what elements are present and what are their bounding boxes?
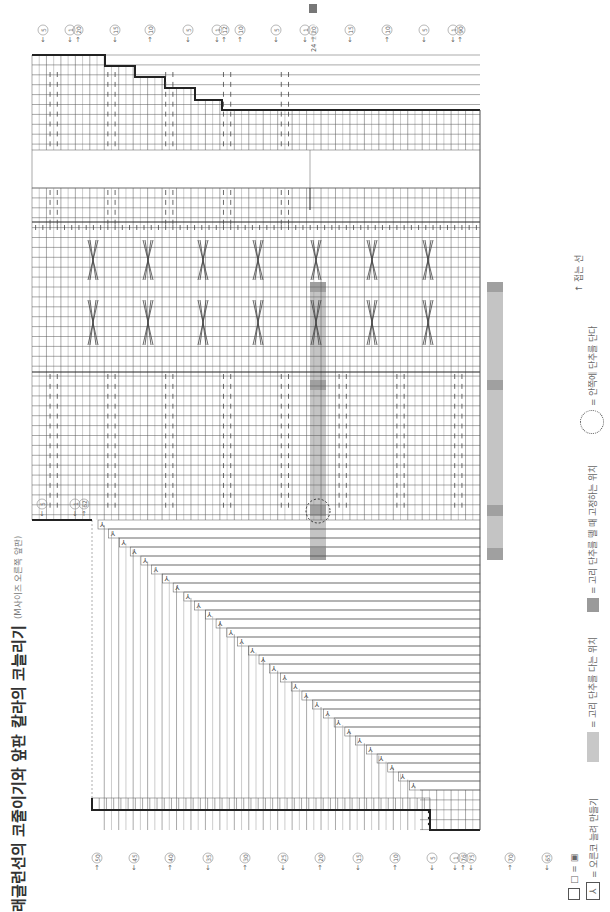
- arrow-icon: ↓: [40, 36, 46, 44]
- decrease-icon: ⅄: [174, 584, 180, 592]
- fix-position-cell: [487, 505, 503, 516]
- row-label: 10: [382, 25, 392, 35]
- svg-text:15: 15: [355, 854, 362, 862]
- svg-text:1: 1: [67, 28, 74, 32]
- arrow-icon: ↓: [302, 36, 308, 44]
- svg-text:1: 1: [72, 502, 79, 506]
- arrow-icon: ↓: [72, 510, 78, 518]
- decrease-icon: ⅄: [335, 719, 341, 727]
- arrow-icon: ↑: [75, 36, 81, 44]
- decrease-icon: ⅄: [410, 782, 416, 790]
- arrow-icon: ↑: [392, 864, 398, 872]
- arrow-icon: ↓: [452, 864, 458, 872]
- fold-gap: [32, 150, 480, 188]
- arrow-icon: ↑: [457, 36, 463, 44]
- knitting-chart: ⅄⅄⅄⅄⅄⅄⅄⅄⅄⅄⅄⅄⅄⅄⅄⅄⅄⅄⅄⅄⅄⅄⅄⅄⅄⅄⅄⅄⅄⅄5↓1↓20↑15↓…: [0, 0, 610, 912]
- decrease-icon: ⅄: [314, 701, 320, 709]
- svg-text:62: 62: [81, 500, 88, 508]
- decrease-icon: ⅄: [271, 665, 277, 673]
- svg-text:12: 12: [221, 26, 228, 34]
- decrease-icon: ⅄: [110, 530, 116, 538]
- fix-position-cell: [487, 548, 503, 560]
- row-label: 30: [240, 853, 250, 863]
- decrease-icon: ⅄: [120, 539, 126, 547]
- row-label: 70: [505, 853, 515, 863]
- svg-text:65: 65: [544, 854, 551, 862]
- row-label: 1: [70, 499, 80, 509]
- row-label: 5: [37, 499, 47, 509]
- fix-position-cell: [487, 380, 503, 390]
- decrease-icon: ⅄: [163, 575, 169, 583]
- row-label: 90: [455, 25, 465, 35]
- svg-text:5: 5: [273, 28, 280, 32]
- arrow-icon: ↓: [450, 36, 456, 44]
- decrease-icon: ⅄: [206, 611, 212, 619]
- knit-box-icon: [568, 888, 580, 900]
- legend-right-increase: ⅄ = 오른코 늘려 만들기: [586, 798, 600, 900]
- arrow-icon: ↓: [280, 864, 286, 872]
- arrow-icon: ↓: [429, 864, 435, 872]
- cable-cross-icon: [88, 240, 98, 280]
- arrow-icon: ↓: [39, 510, 45, 518]
- row-label: 20: [315, 853, 325, 863]
- row-label: 10: [235, 25, 245, 35]
- row-label: 65: [542, 853, 552, 863]
- arrow-icon: ↓: [214, 36, 220, 44]
- arrow-icon: ↑: [237, 36, 243, 44]
- arrow-icon: ↓: [205, 864, 211, 872]
- arrow-icon: ↓: [131, 864, 137, 872]
- svg-text:90: 90: [457, 26, 464, 34]
- bind-off-dot: [428, 823, 430, 825]
- row-label: 1: [450, 853, 460, 863]
- chart-title: 래글런선의 코줄이기와 앞판 칼라의 코늘리기 (M사이즈 오른쪽 앞판): [4, 352, 30, 912]
- decrease-icon: ⅄: [389, 764, 395, 772]
- row-label: 5: [427, 853, 437, 863]
- row-label: 10: [390, 853, 400, 863]
- svg-text:70: 70: [507, 854, 514, 862]
- decrease-icon: ⅄: [292, 683, 298, 691]
- arrow-icon: ↓: [67, 36, 73, 44]
- arrow-icon: ↓: [273, 36, 279, 44]
- arrow-icon: ↑: [317, 864, 323, 872]
- dark-shade-swatch: [587, 598, 599, 612]
- arrow-icon: ↑: [147, 36, 153, 44]
- decrease-icon: ⅄: [367, 746, 373, 754]
- arrow-icon: ↑: [221, 36, 227, 44]
- row-label: 45: [129, 853, 139, 863]
- svg-text:20: 20: [75, 26, 82, 34]
- decrease-icon: ⅄: [153, 566, 159, 574]
- neck-outline: [32, 55, 480, 110]
- arrow-icon: ↑: [167, 864, 173, 872]
- bind-off-dot: [428, 817, 430, 819]
- svg-text:45: 45: [131, 854, 138, 862]
- dotted-circle-icon: [580, 410, 604, 434]
- row-label: 15: [110, 25, 120, 35]
- arrow-icon: ↓: [347, 36, 353, 44]
- arrow-icon: ↓: [544, 864, 550, 872]
- decrease-icon: ⅄: [228, 629, 234, 637]
- svg-text:5: 5: [421, 28, 428, 32]
- decrease-icon: ⅄: [281, 674, 287, 682]
- svg-text:10: 10: [392, 854, 399, 862]
- decrease-icon: ⅄: [249, 647, 255, 655]
- legend-inner-button: = 안쪽에 단추를 단다: [580, 326, 604, 434]
- svg-text:15: 15: [112, 26, 119, 34]
- arrow-icon: ↑: [384, 36, 390, 44]
- arrow-icon: ↓: [468, 864, 474, 872]
- light-shade-swatch: [587, 732, 599, 762]
- row-label: 15: [353, 853, 363, 863]
- row-label: 25: [278, 853, 288, 863]
- decrease-icon: ⅄: [196, 602, 202, 610]
- fix-position-cell: [310, 380, 326, 390]
- svg-text:5: 5: [185, 28, 192, 32]
- legend: □ = ▣ ⅄ = 오른코 늘려 만들기 = 고리 단추를 다는 위치 = 고리…: [566, 262, 606, 912]
- legend-button-loop-position: = 고리 단추를 다는 위치: [586, 637, 599, 762]
- row-label: 5: [38, 25, 48, 35]
- svg-text:50: 50: [94, 854, 101, 862]
- svg-text:40: 40: [167, 854, 174, 862]
- size-variant-label: 20: [310, 32, 318, 40]
- row-label: 76: [458, 853, 468, 863]
- decrease-icon: ⅄: [303, 692, 309, 700]
- arrow-icon: ↑: [460, 864, 466, 872]
- row-label: 5: [183, 25, 193, 35]
